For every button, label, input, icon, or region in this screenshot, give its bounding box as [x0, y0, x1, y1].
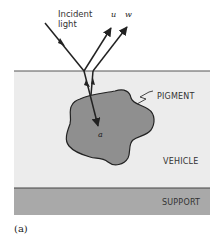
incident-label-line1: Incident — [58, 9, 93, 19]
vehicle-label: VEHICLE — [163, 157, 198, 166]
ray-u-label: u — [111, 10, 116, 19]
panel-label: (a) — [14, 223, 28, 234]
incident-label-line2: light — [58, 19, 78, 29]
incident-ray — [45, 23, 84, 71]
pigment-diagram: Incident light u w PIGMENT a VEHICLE SUP… — [0, 0, 222, 236]
point-a-label: a — [98, 130, 103, 139]
support-label: SUPPORT — [162, 198, 200, 207]
ray-w-label: w — [125, 10, 132, 19]
pigment-label: PIGMENT — [157, 92, 195, 101]
